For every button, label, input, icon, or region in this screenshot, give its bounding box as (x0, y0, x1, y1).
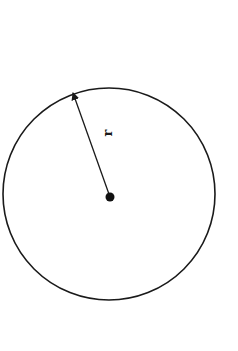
radius-arrow (73, 93, 110, 197)
circle-diagram (0, 0, 238, 351)
radius-label: r (100, 126, 116, 140)
center-point (106, 193, 115, 202)
